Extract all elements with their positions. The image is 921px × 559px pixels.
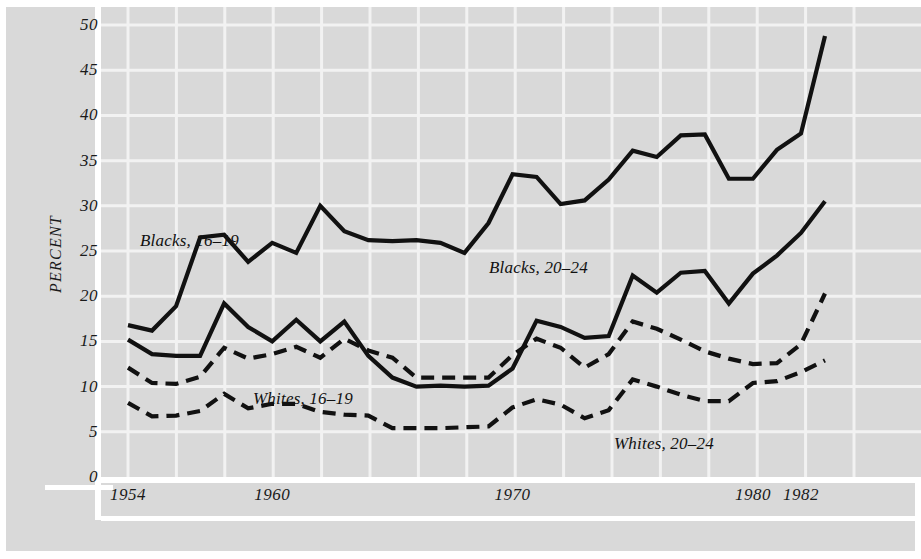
x-tick-label: 1982 (783, 485, 819, 505)
page-margin-top (0, 0, 921, 7)
x-tick-label: 1980 (735, 485, 771, 505)
chart-figure: 50454035302520151050 PERCENT 19541960197… (0, 0, 921, 559)
y-tick-label: 5 (28, 422, 98, 442)
x-tick-label: 1970 (495, 485, 531, 505)
y-tick-label: 40 (28, 105, 98, 125)
series-line-4 (128, 360, 825, 428)
page-margin-bottom (0, 551, 921, 559)
y-tick-label: 45 (28, 60, 98, 80)
x-tick-label: 1960 (254, 485, 290, 505)
series-line-3 (128, 294, 825, 384)
axis-separator-rule (101, 477, 921, 483)
x-tick-label: 1954 (110, 485, 146, 505)
series-annotation-3: Whites, 16–19 (253, 389, 353, 409)
series-line-2 (128, 201, 825, 386)
series-annotation-2: Blacks, 20–24 (489, 258, 588, 278)
series-line-1 (128, 36, 825, 331)
y-tick-label: 15 (28, 331, 98, 351)
y-tick-label: 50 (28, 15, 98, 35)
y-tick-label: 10 (28, 377, 98, 397)
page-margin-left (0, 0, 6, 559)
y-tick-label: 35 (28, 151, 98, 171)
series-annotation-1: Blacks, 16–19 (140, 231, 239, 251)
y-tick-label: 0 (28, 467, 98, 487)
y-axis-title: PERCENT (47, 174, 65, 334)
series-annotation-4: Whites, 20–24 (614, 434, 714, 454)
axis-separator-rule-lower (101, 516, 921, 521)
